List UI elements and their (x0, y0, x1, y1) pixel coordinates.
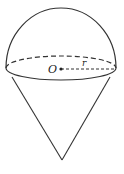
cone-hemisphere-diagram: O r (0, 0, 124, 174)
center-label: O (48, 63, 57, 76)
cone-right-side (62, 77, 110, 160)
equator-back-dashed (6, 56, 116, 68)
cone-left-side (12, 77, 62, 160)
center-point (59, 67, 62, 70)
radius-label: r (82, 58, 87, 68)
